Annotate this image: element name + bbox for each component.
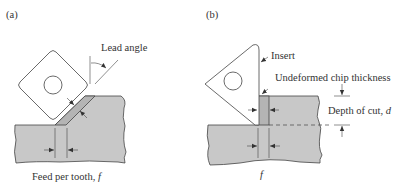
chip-b xyxy=(258,96,269,125)
feed-symbol-b: f xyxy=(260,169,265,180)
lead-angle-label: Lead angle xyxy=(101,42,148,53)
lead-angle-arc-arrow xyxy=(91,63,106,68)
panel-b: (b) Insert Undeformed chip thickness Dep… xyxy=(205,9,392,180)
feed-per-tooth-label: Feed per tooth, f xyxy=(32,171,103,182)
chip-thickness-leader-arrow xyxy=(262,89,268,94)
undeformed-chip-thickness-label: Undeformed chip thickness xyxy=(275,72,390,83)
panel-a: (a) Lead angle Feed per tooth, f xyxy=(6,9,148,182)
milling-cut-diagram: (a) Lead angle Feed per tooth, f (b) xyxy=(0,0,406,187)
workpiece-a xyxy=(15,96,127,163)
insert-label: Insert xyxy=(271,50,295,61)
panel-a-label: (a) xyxy=(6,9,18,21)
insert-b-hole xyxy=(224,72,242,90)
depth-of-cut-label: Depth of cut, d xyxy=(328,105,392,116)
panel-b-label: (b) xyxy=(206,9,219,21)
insert-leader-arrow xyxy=(261,57,268,62)
insert-a-hole xyxy=(44,76,62,94)
